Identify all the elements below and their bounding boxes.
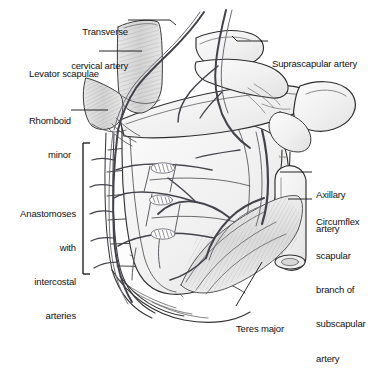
label-line: intercostal [2, 276, 76, 287]
label-line: Levator scapulae [9, 68, 99, 79]
label-line: artery [316, 353, 380, 364]
anastomoses-bracket [83, 143, 90, 274]
label-line: scapular [316, 250, 380, 261]
label-suprascapular-artery: Suprascapular artery [272, 35, 378, 92]
label-circumflex-scapular-branch: Circumflex scapular branch of subscapula… [316, 193, 380, 368]
label-line: Rhomboid [6, 115, 71, 126]
label-rhomboid-minor: Rhomboid minor [6, 92, 71, 183]
label-line: Suprascapular artery [272, 58, 378, 69]
label-line: Anastomoses [2, 208, 76, 219]
label-line: branch of [316, 284, 380, 295]
label-line: minor [6, 149, 71, 160]
leader-suprascapular-hook [232, 36, 237, 41]
label-teres-major: Teres major [236, 300, 316, 357]
label-line: Teres major [236, 323, 316, 334]
label-line: subscapular [316, 318, 380, 329]
label-line: with [2, 242, 76, 253]
label-line: Circumflex [316, 216, 380, 227]
label-anastomoses-with-intercostal-arteries: Anastomoses with intercostal arteries [2, 185, 76, 345]
leader-transverse-cervical-hook [170, 20, 176, 25]
label-line: arteries [2, 310, 76, 321]
label-line: Transverse [48, 26, 128, 37]
